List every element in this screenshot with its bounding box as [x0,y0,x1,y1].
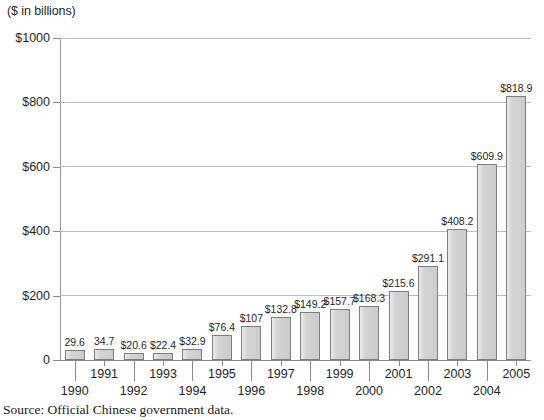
bar-1994[interactable] [182,349,202,360]
bar-1993[interactable] [153,353,173,360]
bar-slot: 29.6 [60,38,89,360]
x-axis-label-1995: 1995 [208,367,236,381]
bar-value-label-2002: $291.1 [412,252,444,264]
bar-2004[interactable] [477,164,497,360]
bar-slot: $818.9 [502,38,531,360]
x-tick-1998 [310,360,311,381]
x-axis-label-2002: 2002 [414,384,442,398]
x-axis-label-1992: 1992 [120,384,148,398]
bar-value-label-1993: $22.4 [150,339,176,351]
bar-value-label-2000: $168.3 [353,292,385,304]
bar-1998[interactable] [300,312,320,360]
bar-value-label-2003: $408.2 [441,215,473,227]
x-tick-1994 [192,360,193,381]
bar-series: 29.634.7$20.6$22.4$32.9$76.4$107$132.8$1… [60,38,531,360]
bar-slot: $107 [237,38,266,360]
bar-2005[interactable] [506,96,526,360]
y-tick-mark [53,231,60,232]
y-axis-label: $200 [22,289,50,303]
bar-slot: $408.2 [443,38,472,360]
bar-value-label-2004: $609.9 [471,150,503,162]
x-tick-2000 [369,360,370,381]
bar-1990[interactable] [65,350,85,360]
x-axis-label-2003: 2003 [444,367,472,381]
x-tick-1993 [163,360,164,366]
source-note: Source: Official Chinese government data… [3,402,233,418]
bar-1999[interactable] [330,309,350,360]
bar-2003[interactable] [447,229,467,360]
y-axis-label: 0 [43,353,50,367]
x-axis-label-1999: 1999 [326,367,354,381]
bar-2000[interactable] [359,306,379,360]
x-tick-2002 [428,360,429,381]
bar-value-label-1992: $20.6 [120,339,146,351]
bar-chart-figure: ($ in billions) 0$200$400$600$800$1000 2… [0,0,544,420]
bar-value-label-1995: $76.4 [209,321,235,333]
y-axis-label: $1000 [15,31,50,45]
y-tick-mark [53,360,60,361]
x-tick-1992 [134,360,135,381]
bar-slot: $20.6 [119,38,148,360]
bar-slot: $132.8 [266,38,295,360]
x-axis-label-2005: 2005 [502,367,530,381]
chart-unit-caption: ($ in billions) [7,4,76,18]
bar-value-label-1994: $32.9 [179,335,205,347]
bar-1996[interactable] [241,326,261,360]
x-tick-1999 [340,360,341,366]
y-tick-mark [53,167,60,168]
x-tick-1995 [222,360,223,366]
bar-value-label-1996: $107 [240,312,263,324]
bar-slot: 34.7 [89,38,118,360]
bar-1997[interactable] [271,317,291,360]
bar-1991[interactable] [94,349,114,360]
bar-value-label-1990: 29.6 [65,336,85,348]
bar-slot: $609.9 [472,38,501,360]
bar-value-label-2005: $818.9 [500,82,532,94]
bar-slot: $22.4 [148,38,177,360]
y-tick-mark [53,296,60,297]
y-axis-label: $800 [22,95,50,109]
x-tick-2001 [399,360,400,366]
bar-2001[interactable] [389,291,409,360]
y-tick-mark [53,38,60,39]
bar-slot: $76.4 [207,38,236,360]
bar-2002[interactable] [418,266,438,360]
bar-slot: $32.9 [178,38,207,360]
x-axis-label-1996: 1996 [237,384,265,398]
bar-1992[interactable] [124,353,144,360]
x-axis-label-2000: 2000 [355,384,383,398]
bar-value-label-1999: $157.7 [324,295,356,307]
bar-slot: $291.1 [413,38,442,360]
x-axis-label-2001: 2001 [385,367,413,381]
x-axis-label-1998: 1998 [296,384,324,398]
x-tick-1997 [281,360,282,366]
x-axis-label-2004: 2004 [473,384,501,398]
x-tick-1996 [251,360,252,381]
y-tick-mark [53,102,60,103]
x-tick-1991 [104,360,105,366]
bar-value-label-1997: $132.8 [265,303,297,315]
x-axis-label-1993: 1993 [149,367,177,381]
bar-value-label-2001: $215.6 [382,277,414,289]
x-axis-label-1991: 1991 [90,367,118,381]
bar-value-label-1998: $149.2 [294,298,326,310]
x-tick-2005 [516,360,517,366]
bar-1995[interactable] [212,335,232,360]
x-axis-label-1997: 1997 [267,367,295,381]
bar-slot: $149.2 [296,38,325,360]
x-tick-2003 [457,360,458,366]
x-axis-label-1994: 1994 [179,384,207,398]
bar-slot: $157.7 [325,38,354,360]
bar-slot: $215.6 [384,38,413,360]
x-tick-1990 [75,360,76,381]
y-axis-label: $400 [22,224,50,238]
plot-area: 0$200$400$600$800$1000 29.634.7$20.6$22.… [60,38,531,360]
x-tick-2004 [487,360,488,381]
x-axis-label-1990: 1990 [61,384,89,398]
y-axis-label: $600 [22,160,50,174]
bar-value-label-1991: 34.7 [94,335,114,347]
bar-slot: $168.3 [354,38,383,360]
